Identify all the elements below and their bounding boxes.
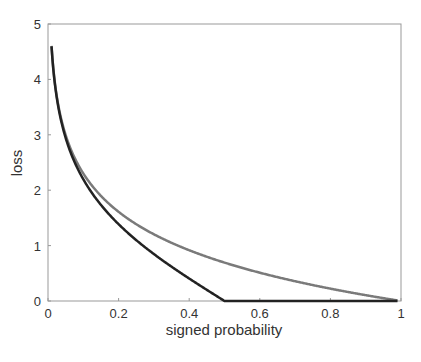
y-tick-label: 0: [34, 294, 41, 309]
grey-loss-curve: [52, 46, 398, 301]
plot-frame: [48, 24, 401, 301]
x-axis-label: signed probability: [166, 321, 283, 338]
x-tick-label: 1: [397, 306, 404, 321]
x-tick-label: 0.6: [251, 306, 269, 321]
x-tick-label: 0.8: [321, 306, 339, 321]
x-tick-label: 0.4: [180, 306, 198, 321]
y-tick-label: 5: [34, 17, 41, 32]
y-axis-label: loss: [8, 150, 25, 177]
y-tick-label: 1: [34, 239, 41, 254]
y-tick-label: 4: [34, 72, 41, 87]
loss-chart: 00.20.40.60.81012345 signed probability …: [0, 0, 421, 362]
x-tick-label: 0.2: [110, 306, 128, 321]
y-tick-label: 2: [34, 183, 41, 198]
x-tick-label: 0: [44, 306, 51, 321]
y-tick-label: 3: [34, 128, 41, 143]
